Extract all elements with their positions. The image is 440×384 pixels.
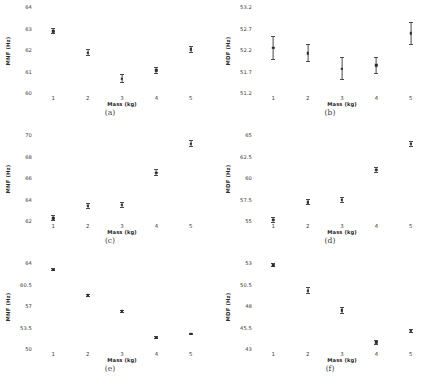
y-axis-tick: 60 [245, 176, 252, 181]
x-axis: 12345Mass (kg) [256, 96, 428, 106]
error-bar-cap-upper [374, 57, 378, 58]
data-marker [155, 337, 157, 339]
x-axis-tick: 1 [271, 96, 274, 101]
data-marker [155, 171, 157, 173]
error-bar-cap-upper [340, 57, 344, 58]
error-bar-cap-lower [306, 293, 310, 294]
data-marker [121, 77, 123, 79]
x-axis-tick: 2 [86, 96, 89, 101]
x-axis-label: Mass (kg) [327, 229, 356, 235]
y-axis-tick: 62.5 [240, 155, 252, 160]
error-bar-cap-upper [86, 49, 90, 50]
error-bar-cap-lower [374, 73, 378, 74]
x-axis-tick: 2 [306, 224, 309, 229]
x-axis-tick: 5 [189, 352, 192, 357]
error-bar-cap-lower [306, 204, 310, 205]
error-bar-cap-lower [189, 52, 193, 53]
error-bar-cap-lower [271, 59, 275, 60]
x-axis: 12345Mass (kg) [36, 352, 208, 362]
data-marker [52, 217, 54, 219]
x-axis-tick: 5 [189, 96, 192, 101]
plot-area: 6264666870 [36, 136, 208, 222]
y-axis-tick: 64 [25, 198, 32, 203]
error-bar-cap-lower [86, 208, 90, 209]
subplot-f: MDF (Hz)4345.54850.55312345Mass (kg)(f) [220, 256, 440, 384]
error-bar-cap-lower [409, 332, 413, 333]
plot-area: 6061626364 [36, 8, 208, 94]
data-marker [52, 268, 54, 270]
y-axis-label: MDF (Hz) [225, 293, 231, 322]
subplot-a: MNF (Hz)606162636412345Mass (kg)(a) [0, 0, 220, 128]
data-marker [410, 32, 412, 34]
error-bar-cap-lower [51, 33, 55, 34]
y-axis-tick: 48 [245, 304, 252, 309]
y-axis-tick: 65 [245, 133, 252, 138]
y-axis-tick: 62 [25, 219, 32, 224]
x-axis-label: Mass (kg) [107, 357, 136, 363]
x-axis-tick: 5 [409, 96, 412, 101]
data-marker [121, 310, 123, 312]
error-bar-cap-upper [189, 46, 193, 47]
error-bar-cap-lower [86, 55, 90, 56]
y-axis-label: MNF (Hz) [5, 37, 11, 66]
data-marker [190, 48, 192, 50]
y-axis-label: MNF (Hz) [5, 165, 11, 194]
y-axis-label: MDF (Hz) [225, 37, 231, 66]
data-marker [375, 168, 377, 170]
error-bar-cap-upper [86, 203, 90, 204]
subplot-caption: (f) [220, 364, 440, 373]
x-axis-tick: 2 [86, 352, 89, 357]
x-axis-tick: 5 [189, 224, 192, 229]
y-axis-tick: 66 [25, 176, 32, 181]
y-axis-tick: 50 [25, 347, 32, 352]
x-axis: 12345Mass (kg) [256, 224, 428, 234]
subplot-caption: (b) [220, 108, 440, 117]
y-axis-tick: 50.5 [240, 283, 252, 288]
y-axis-tick: 64 [25, 5, 32, 10]
subplot-caption: (e) [0, 364, 220, 373]
y-axis-tick: 52.2 [240, 48, 252, 53]
data-marker [52, 30, 54, 32]
error-bar-cap-lower [271, 266, 275, 267]
y-axis-label: MNF (Hz) [5, 293, 11, 322]
error-bar-cap-lower [409, 146, 413, 147]
error-bar-cap-lower [189, 146, 193, 147]
x-axis-label: Mass (kg) [107, 101, 136, 107]
y-axis-tick: 68 [25, 155, 32, 160]
data-marker [410, 143, 412, 145]
x-axis-tick: 1 [271, 224, 274, 229]
error-bar-cap-lower [340, 313, 344, 314]
x-axis-tick: 4 [155, 224, 158, 229]
data-marker [306, 289, 308, 291]
x-axis-tick: 4 [375, 352, 378, 357]
error-bar-cap-upper [51, 28, 55, 29]
figure-canvas: MNF (Hz)606162636412345Mass (kg)(a)MDF (… [0, 0, 440, 384]
x-axis-tick: 4 [155, 96, 158, 101]
data-marker [410, 330, 412, 332]
data-marker [121, 204, 123, 206]
subplot-caption: (c) [0, 236, 220, 245]
y-axis-tick: 53.5 [20, 326, 32, 331]
x-axis-tick: 4 [375, 96, 378, 101]
subplot-d: MDF (Hz)5557.56062.56512345Mass (kg)(d) [220, 128, 440, 256]
subplot-caption: (d) [220, 236, 440, 245]
data-marker [155, 69, 157, 71]
data-marker [190, 142, 192, 144]
error-bar-cap-lower [340, 202, 344, 203]
x-axis-tick: 5 [409, 352, 412, 357]
subplot-b: MDF (Hz)51.251.752.252.753.212345Mass (k… [220, 0, 440, 128]
x-axis-label: Mass (kg) [107, 229, 136, 235]
y-axis-tick: 57.5 [240, 198, 252, 203]
error-bar-cap-upper [306, 199, 310, 200]
y-axis-tick: 43 [245, 347, 252, 352]
error-bar-cap-upper [409, 22, 413, 23]
y-axis-tick: 60.5 [20, 283, 32, 288]
data-marker [375, 341, 377, 343]
y-axis-tick: 51.7 [240, 70, 252, 75]
data-marker [306, 52, 308, 54]
x-axis: 12345Mass (kg) [36, 224, 208, 234]
y-axis-label: MDF (Hz) [225, 165, 231, 194]
error-bar-cap-upper [189, 140, 193, 141]
error-bar-cap-upper [120, 202, 124, 203]
data-marker [86, 294, 88, 296]
